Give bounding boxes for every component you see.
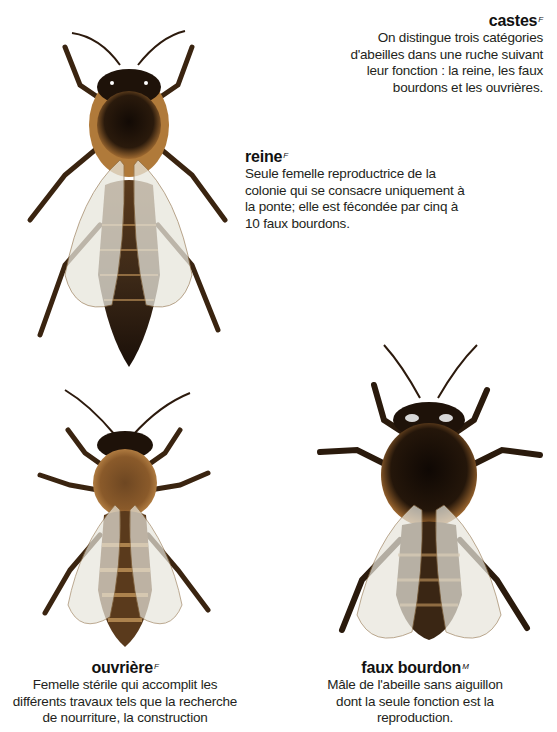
castes-definition: castesF On distingue trois catégories d'… xyxy=(283,12,543,96)
castes-line-2: d'abeilles dans une ruche suivant xyxy=(283,47,543,64)
castes-line-4: bourdons et les ouvrières. xyxy=(283,80,543,97)
reine-term: reineF xyxy=(245,148,485,166)
ouvriere-line-3: de nourriture, la construction xyxy=(0,710,250,727)
reine-line-2: colonie qui se consacre uniquement à xyxy=(245,183,485,200)
reine-definition: reineF Seule femelle reproductrice de la… xyxy=(245,148,485,232)
faux-bourdon-line-1: Mâle de l'abeille sans aiguillon xyxy=(300,677,530,694)
faux-bourdon-term: faux bourdonM xyxy=(300,659,530,677)
reine-line-1: Seule femelle reproductrice de la xyxy=(245,166,485,183)
faux-bourdon-definition: faux bourdonM Mâle de l'abeille sans aig… xyxy=(300,659,530,727)
faux-bourdon-line-3: reproduction. xyxy=(300,710,530,727)
drone-bee-illustration xyxy=(312,340,547,650)
reine-line-4: 10 faux bourdons. xyxy=(245,216,485,233)
ouvriere-line-2: différents travaux tels que la recherche xyxy=(0,694,250,711)
castes-line-3: leur fonction : la reine, les faux xyxy=(283,63,543,80)
ouvriere-definition: ouvrièreF Femelle stérile qui accomplit … xyxy=(0,659,250,727)
reine-line-3: la ponte; elle est fécondée par cinq à xyxy=(245,199,485,216)
faux-bourdon-line-2: dont la seule fonction est la xyxy=(300,694,530,711)
worker-bee-illustration xyxy=(30,385,220,650)
ouvriere-line-1: Femelle stérile qui accomplit les xyxy=(0,677,250,694)
queen-bee-illustration xyxy=(20,25,235,370)
castes-line-1: On distingue trois catégories xyxy=(283,30,543,47)
ouvriere-term: ouvrièreF xyxy=(0,659,250,677)
castes-term: castesF xyxy=(283,12,543,30)
